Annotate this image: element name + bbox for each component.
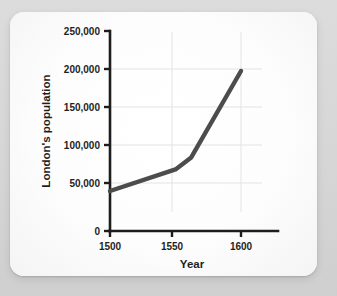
x-tick-label-1500: 1500	[99, 241, 122, 252]
y-tick-label-100000: 100,000	[64, 140, 101, 151]
y-tick-label-200000: 200,000	[64, 64, 101, 75]
y-tick-label-50000: 50,000	[69, 178, 100, 189]
y-axis	[104, 31, 110, 231]
vertical-gridlines	[172, 32, 241, 212]
chart-card: 250,000 200,000 150,000 100,000 50,000 0…	[10, 12, 317, 276]
data-series-londons-population	[110, 71, 241, 191]
horizontal-gridlines	[110, 69, 262, 183]
x-axis	[109, 231, 278, 237]
chart-plot-area: 250,000 200,000 150,000 100,000 50,000 0…	[10, 12, 317, 276]
y-tick-label-0: 0	[94, 226, 100, 237]
y-axis-title: London's population	[40, 74, 52, 187]
screenshot-root: 250,000 200,000 150,000 100,000 50,000 0…	[0, 0, 337, 296]
y-tick-label-250000: 250,000	[64, 26, 101, 37]
line-chart-svg: 250,000 200,000 150,000 100,000 50,000 0…	[10, 12, 317, 276]
x-tick-label-1550: 1550	[161, 241, 184, 252]
x-axis-title: Year	[180, 258, 205, 270]
x-tick-label-1600: 1600	[230, 241, 253, 252]
x-tick-labels: 1500 1550 1600	[99, 241, 253, 252]
y-tick-labels: 250,000 200,000 150,000 100,000 50,000 0	[64, 26, 101, 237]
y-tick-label-150000: 150,000	[64, 102, 101, 113]
